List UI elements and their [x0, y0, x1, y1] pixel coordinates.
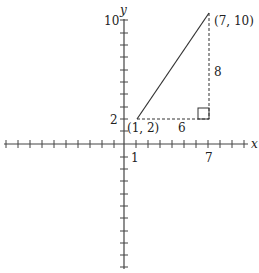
x-tick-label-1: 1 [131, 151, 139, 165]
y-tick-label-2: 2 [110, 113, 118, 127]
x-axis-label: x [251, 137, 258, 151]
x-tick-label-7: 7 [205, 151, 213, 165]
hypotenuse [137, 13, 209, 119]
vertical-leg-label: 8 [214, 65, 222, 79]
point-label-1-2: (1, 2) [127, 121, 159, 135]
horizontal-leg-label: 6 [178, 121, 186, 135]
coordinate-diagram: y x 10 2 1 7 (1, 2) (7, 10) 6 8 [0, 0, 259, 273]
point-label-7-10: (7, 10) [214, 14, 254, 28]
y-axis-label: y [119, 3, 127, 17]
right-angle-marker [198, 108, 209, 119]
y-tick-label-10: 10 [104, 14, 119, 28]
x-axis [4, 140, 248, 148]
